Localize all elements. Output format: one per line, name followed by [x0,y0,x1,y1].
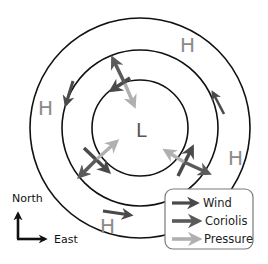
high-pressure-label-left: H [38,96,53,120]
coriolis-arrow [184,162,208,173]
north-label: North [12,192,43,205]
high-pressure-label-bottom: H [100,214,115,238]
low-pressure-diagram: L H H H H North East Wind Coriolis Pr [0,0,268,264]
east-label: East [54,233,78,246]
force-cluster-top [112,59,134,105]
legend-pressure-label: Pressure [204,232,253,246]
compass: North East [12,192,78,246]
force-cluster-left [80,142,116,176]
legend-wind-label: Wind [203,196,232,210]
low-pressure-label: L [136,119,147,141]
pressure-arrow [125,84,134,105]
high-pressure-label-top: H [180,33,195,57]
coriolis-arrow [113,59,125,84]
pressure-arrow [97,142,116,159]
coriolis-arrow [80,159,97,176]
wind-arrow-left [66,81,73,104]
legend-coriolis-label: Coriolis [205,214,247,228]
force-cluster-right [166,148,208,176]
high-pressure-label-right: H [228,146,243,170]
legend: Wind Coriolis Pressure [165,189,253,249]
